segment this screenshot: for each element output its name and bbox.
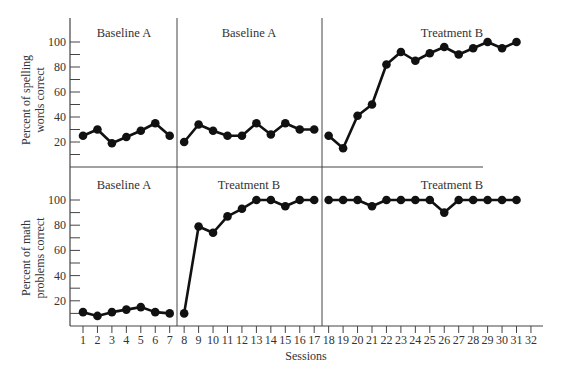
data-point-marker (238, 205, 247, 214)
data-point-marker (440, 208, 449, 217)
svg-text:problems correct: problems correct (33, 217, 47, 299)
data-point-marker (93, 312, 102, 321)
y-tick-label: 20 (54, 135, 66, 149)
x-tick-label: 24 (409, 333, 421, 347)
x-tick-label: 12 (236, 333, 248, 347)
data-point-marker (382, 196, 391, 205)
data-point-marker (339, 144, 348, 153)
data-point-marker (223, 131, 232, 140)
data-point-marker (209, 126, 218, 135)
y-tick-label: 60 (54, 243, 66, 257)
x-tick-label: 27 (453, 333, 465, 347)
x-tick-label: 4 (123, 333, 129, 347)
data-point-marker (165, 309, 174, 318)
data-point-marker (454, 196, 463, 205)
x-tick-label: 22 (380, 333, 392, 347)
data-point-marker (180, 309, 189, 318)
data-point-marker (498, 44, 507, 53)
x-tick-label: 25 (424, 333, 436, 347)
data-point-marker (108, 308, 117, 317)
data-point-marker (281, 202, 290, 211)
data-point-marker (411, 196, 420, 205)
svg-text:Percent of spelling: Percent of spelling (19, 55, 33, 145)
data-point-marker (79, 308, 88, 317)
data-point-marker (108, 139, 117, 148)
data-point-marker (382, 60, 391, 69)
y-tick-label: 40 (54, 269, 66, 283)
data-point-marker (252, 119, 261, 128)
x-tick-label: 15 (279, 333, 291, 347)
x-tick-label: 10 (207, 333, 219, 347)
multiple-baseline-chart: 2040608010020406080100123456789101112131… (0, 0, 562, 379)
y-tick-label: 80 (54, 218, 66, 232)
x-tick-label: 23 (395, 333, 407, 347)
data-point-marker (194, 222, 203, 231)
x-tick-label: 14 (265, 333, 277, 347)
data-point-marker (469, 44, 478, 53)
data-point-marker (137, 303, 146, 312)
data-point-marker (137, 126, 146, 135)
bottom-y-axis-title: Percent of math problems correct (19, 217, 47, 299)
data-point-marker (151, 119, 160, 128)
x-tick-label: 21 (366, 333, 378, 347)
x-tick-label: 19 (337, 333, 349, 347)
x-tick-label: 9 (196, 333, 202, 347)
data-point-marker (295, 196, 304, 205)
x-tick-label: 30 (496, 333, 508, 347)
data-point-marker (252, 196, 261, 205)
data-point-marker (295, 125, 304, 134)
data-point-marker (151, 308, 160, 317)
data-point-marker (180, 138, 189, 147)
x-tick-label: 17 (308, 333, 320, 347)
x-axis-title: Sessions (285, 349, 327, 363)
bottom-phase-label-3: Treatment B (421, 178, 483, 192)
data-point-marker (165, 131, 174, 140)
series-line (329, 42, 517, 148)
data-point-marker (310, 196, 319, 205)
data-point-marker (411, 56, 420, 65)
x-tick-label: 3 (109, 333, 115, 347)
x-tick-label: 29 (482, 333, 494, 347)
data-point-marker (353, 111, 362, 120)
data-point-marker (79, 131, 88, 140)
data-point-marker (267, 130, 276, 139)
data-point-marker (368, 202, 377, 211)
y-tick-label: 100 (48, 35, 66, 49)
x-tick-label: 2 (94, 333, 100, 347)
bottom-phase-label-1: Baseline A (97, 178, 152, 192)
y-tick-label: 80 (54, 60, 66, 74)
data-point-marker (223, 212, 232, 221)
data-point-marker (454, 50, 463, 59)
data-point-marker (194, 120, 203, 129)
x-tick-label: 11 (222, 333, 234, 347)
data-point-marker (397, 48, 406, 57)
data-point-marker (324, 196, 333, 205)
data-point-marker (122, 133, 131, 142)
data-point-marker (469, 196, 478, 205)
data-point-marker (122, 305, 131, 314)
data-point-marker (281, 119, 290, 128)
series-line (184, 200, 314, 313)
x-tick-label: 8 (181, 333, 187, 347)
data-point-marker (209, 228, 218, 237)
bottom-phase-label-2: Treatment B (218, 178, 280, 192)
data-point-marker (368, 100, 377, 109)
data-point-marker (483, 38, 492, 47)
x-tick-label: 6 (152, 333, 158, 347)
data-point-marker (397, 196, 406, 205)
data-point-marker (238, 131, 247, 140)
top-y-axis-title: Percent of spelling words correct (19, 55, 47, 145)
y-tick-label: 40 (54, 110, 66, 124)
y-tick-label: 60 (54, 85, 66, 99)
x-tick-label: 7 (167, 333, 173, 347)
data-point-marker (93, 125, 102, 134)
top-phase-label-2: Baseline A (222, 26, 277, 40)
x-tick-label: 31 (511, 333, 523, 347)
x-tick-label: 16 (294, 333, 306, 347)
svg-text:words correct: words correct (33, 67, 47, 133)
x-tick-label: 5 (138, 333, 144, 347)
x-tick-label: 1 (80, 333, 86, 347)
data-point-marker (267, 196, 276, 205)
data-point-marker (512, 196, 521, 205)
x-tick-label: 28 (467, 333, 479, 347)
